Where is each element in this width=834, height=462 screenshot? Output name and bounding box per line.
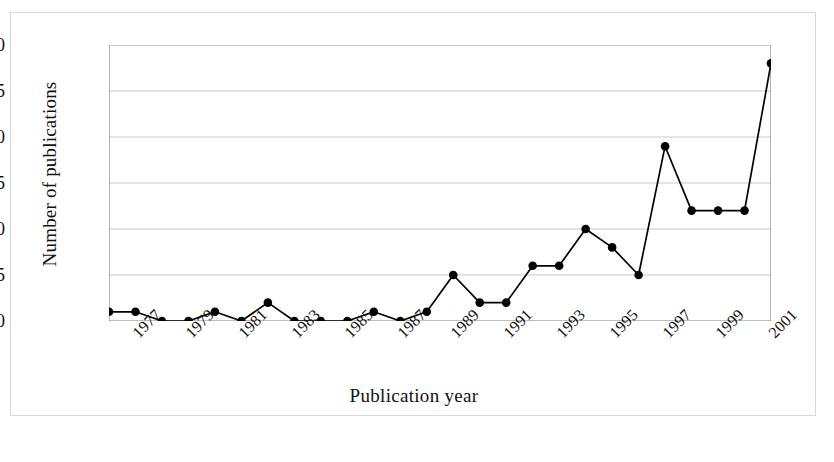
data-point (687, 206, 696, 215)
y-tick-label: 10 (0, 220, 5, 238)
data-point (449, 271, 458, 280)
y-tick-label: 30 (0, 36, 5, 54)
y-tick-label: 5 (0, 266, 5, 284)
data-point (109, 308, 113, 317)
data-point (528, 262, 537, 271)
plot-area: 051015202530 197719791981198319851987198… (109, 45, 771, 321)
data-point (634, 271, 643, 280)
line-chart-svg (109, 45, 771, 321)
y-tick-label: 0 (0, 312, 5, 330)
data-point (767, 59, 771, 68)
y-tick-label: 20 (0, 128, 5, 146)
data-point (661, 142, 670, 151)
data-point (740, 206, 749, 215)
x-axis-title: Publication year (11, 385, 817, 407)
data-point (714, 206, 723, 215)
data-point (555, 262, 564, 271)
chart-figure: Number of publications Publication year … (10, 12, 816, 416)
data-point (475, 298, 484, 307)
y-tick-label: 15 (0, 174, 5, 192)
data-point (264, 298, 273, 307)
data-line (109, 63, 771, 321)
data-point (608, 243, 617, 252)
y-tick-label: 25 (0, 82, 5, 100)
data-point (131, 308, 140, 317)
data-point (581, 225, 590, 234)
y-axis-title: Number of publications (39, 49, 61, 299)
data-point (502, 298, 511, 307)
